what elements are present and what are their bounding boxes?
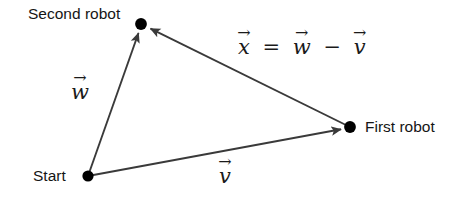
equation-letter-x: x <box>238 35 250 59</box>
equation-minus-sign: − <box>320 35 346 59</box>
point-dot-first-robot <box>344 121 356 133</box>
equation-letter-v: v <box>354 35 366 59</box>
equation-symbol-x: → x <box>237 37 251 58</box>
equation-symbol-w: → w <box>292 37 312 58</box>
vector-letter-v: v <box>219 164 231 188</box>
vector-label-w: → w <box>70 82 90 103</box>
vector-v-line <box>88 129 341 176</box>
equation-symbol-v: → v <box>353 37 367 58</box>
vector-diagram: Second robot First robot Start → w → v →… <box>0 0 464 199</box>
point-label-start: Start <box>33 168 66 184</box>
vector-equation: → x = → w − → v <box>237 37 367 58</box>
vector-w-line <box>88 33 139 176</box>
point-dot-start <box>82 170 93 181</box>
point-label-second-robot: Second robot <box>28 6 120 22</box>
equation-equals-sign: = <box>259 35 285 59</box>
point-dot-second-robot <box>135 18 147 30</box>
equation-letter-w: w <box>293 35 311 59</box>
vector-symbol-w: → w <box>70 82 90 103</box>
vector-letter-w: w <box>71 80 89 104</box>
vector-symbol-v: → v <box>218 166 232 187</box>
point-label-first-robot: First robot <box>365 119 435 135</box>
vector-label-v: → v <box>218 166 232 187</box>
